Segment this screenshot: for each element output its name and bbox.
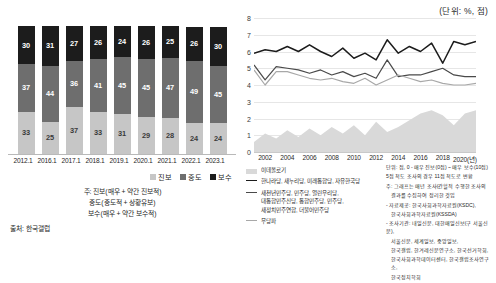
note-line: 주: 그래프는 매년 조사(간헐적 수행한 조사의 bbox=[386, 183, 494, 191]
x-tick-label: 2021.1 bbox=[156, 157, 179, 164]
legend-label: 이데올로기 bbox=[261, 166, 398, 174]
left-chart-notes: 주: 진보(매우 + 약간 진보적)중도(중도적 + 상황유보)보수(매우 + … bbox=[10, 186, 235, 219]
bar-segment-progressive: 24 bbox=[210, 123, 227, 154]
y-tick-label: 7 bbox=[240, 31, 251, 38]
bar-segment-progressive: 29 bbox=[138, 117, 155, 154]
x-tick-label: 2020(년) bbox=[448, 154, 482, 164]
bar-segment-progressive: 25 bbox=[42, 122, 59, 154]
left-chart-legend: 진보중도보수 bbox=[150, 172, 232, 182]
bar-segment-moderate: 37 bbox=[18, 64, 35, 111]
line-chart bbox=[254, 18, 476, 152]
x-tick-label: 2016.1 bbox=[36, 157, 59, 164]
stacked-bar-chart: 3037333144252736372641332445312645292547… bbox=[14, 26, 230, 154]
y-tick-label: 3 bbox=[240, 98, 251, 105]
x-tick-label: 2020.1 bbox=[132, 157, 155, 164]
line-chart-svg bbox=[254, 18, 476, 152]
bar-segment-progressive: 24 bbox=[186, 123, 203, 154]
bar-segment-progressive: 33 bbox=[90, 112, 107, 154]
bar-segment-conservative: 25 bbox=[162, 26, 179, 58]
legend-swatch-icon bbox=[210, 174, 216, 180]
legend-item-mod: 중도 bbox=[180, 172, 202, 182]
x-tick-label: 2019.1 bbox=[108, 157, 131, 164]
left-chart-panel: 3037333144252736372641332445312645292547… bbox=[0, 18, 240, 277]
bar-column: 254728 bbox=[162, 26, 179, 154]
area-series bbox=[254, 110, 476, 152]
legend-swatch-icon bbox=[246, 180, 257, 181]
x-tick-label: 2022.1 bbox=[180, 157, 203, 164]
note-line: 보수(매우 + 약간 보수적) bbox=[10, 208, 235, 219]
note-line: 단위: 점, 0 - 매우 진보(0점) ~ 매우 보수(10점) bbox=[386, 164, 494, 172]
bar-column: 314425 bbox=[42, 26, 59, 154]
note-line: 한국정치학회 bbox=[386, 274, 494, 282]
bar-column: 304524 bbox=[210, 26, 227, 154]
gridline bbox=[254, 152, 476, 153]
bar-segment-conservative: 24 bbox=[114, 26, 131, 57]
legend-item-ideology: 이데올로기 bbox=[246, 166, 398, 174]
legend-label: 새천년민주당, 민주당, 열린우리당,대통합민주신당, 통합민주당, 민주당,새… bbox=[261, 189, 398, 214]
note-line: 결과를 수집하여 정리한 것임 bbox=[386, 192, 494, 200]
note-line: 주: 진보(매우 + 약간 진보적) bbox=[10, 186, 235, 197]
left-chart-source: 출처: 한국갤럽 bbox=[10, 223, 50, 233]
legend-item-prog: 진보 bbox=[150, 172, 172, 182]
bar-column: 264924 bbox=[186, 26, 203, 154]
y-tick-label: 6 bbox=[240, 48, 251, 55]
legend-item-progressive_parties: 새천년민주당, 민주당, 열린우리당,대통합민주신당, 통합민주당, 민주당,새… bbox=[246, 189, 398, 214]
y-tick-label: 4 bbox=[240, 82, 251, 89]
note-line: 한국사회과학데이터센터, 한국갤럽조사연구소, bbox=[386, 256, 494, 272]
bar-segment-progressive: 31 bbox=[114, 114, 131, 154]
bar-segment-moderate: 41 bbox=[90, 59, 107, 111]
legend-swatch-icon bbox=[246, 169, 257, 174]
legend-swatch-icon bbox=[246, 220, 257, 221]
legend-item-cons: 보수 bbox=[210, 172, 232, 182]
x-tick-label: 2012.1 bbox=[12, 157, 35, 164]
note-line: 5점 척도 조사의 경우 11점 척도로 변환 bbox=[386, 173, 494, 181]
legend-item-conservative_parties: 한나라당, 새누리당, 미래통합당, 자유한국당 bbox=[246, 177, 398, 185]
x-tick-label: 2023.1 bbox=[204, 157, 227, 164]
bar-segment-moderate: 45 bbox=[114, 57, 131, 115]
bar-segment-conservative: 27 bbox=[66, 26, 83, 61]
right-chart-legend: 이데올로기한나라당, 새누리당, 미래통합당, 자유한국당새천년민주당, 민주당… bbox=[246, 166, 398, 228]
right-y-axis-labels: 012345678 bbox=[240, 14, 252, 148]
y-tick-label: 5 bbox=[240, 65, 251, 72]
bar-segment-moderate: 47 bbox=[162, 58, 179, 118]
bar-segment-moderate: 45 bbox=[138, 59, 155, 117]
bar-segment-progressive: 37 bbox=[66, 107, 83, 154]
note-line: - 조사기관: 내일신문, 대한매일신보(구 서울신문), bbox=[386, 220, 494, 236]
legend-label: 진보 bbox=[158, 172, 172, 182]
x-tick-label: 2017.1 bbox=[60, 157, 83, 164]
legend-swatch-icon bbox=[246, 192, 257, 193]
right-chart-panel: 012345678 200220042006200820102012201420… bbox=[240, 14, 496, 277]
bar-segment-progressive: 33 bbox=[18, 112, 35, 154]
line-series bbox=[254, 40, 476, 63]
legend-label: 보수 bbox=[218, 172, 232, 182]
bar-segment-moderate: 49 bbox=[186, 61, 203, 124]
bar-segment-conservative: 30 bbox=[210, 27, 227, 65]
note-line: - 자료제공: 한국사회과학자료원(KSDC), bbox=[386, 202, 494, 210]
legend-item-independent: 무당파 bbox=[246, 217, 398, 225]
left-axis-line bbox=[8, 154, 236, 155]
bar-segment-moderate: 45 bbox=[210, 66, 227, 124]
legend-swatch-icon bbox=[180, 174, 186, 180]
x-tick-label: 2018.1 bbox=[84, 157, 107, 164]
y-tick-label: 2 bbox=[240, 115, 251, 122]
legend-swatch-icon bbox=[150, 174, 156, 180]
bar-segment-moderate: 36 bbox=[66, 61, 83, 107]
legend-label: 한나라당, 새누리당, 미래통합당, 자유한국당 bbox=[261, 177, 398, 185]
bar-segment-conservative: 30 bbox=[18, 26, 35, 64]
bar-column: 264529 bbox=[138, 26, 155, 154]
left-x-axis-labels: 2012.12016.12017.12018.12019.12020.12021… bbox=[14, 157, 230, 169]
right-chart-notes: 단위: 점, 0 - 매우 진보(0점) ~ 매우 보수(10점)5점 척도 조… bbox=[386, 164, 494, 283]
bar-column: 273637 bbox=[66, 26, 83, 154]
bar-segment-conservative: 26 bbox=[138, 26, 155, 59]
legend-label: 중도 bbox=[188, 172, 202, 182]
bar-segment-moderate: 44 bbox=[42, 66, 59, 122]
bar-segment-conservative: 31 bbox=[42, 26, 59, 66]
bar-column: 303733 bbox=[18, 26, 35, 154]
line-series bbox=[254, 70, 476, 85]
bar-segment-conservative: 26 bbox=[90, 26, 107, 59]
note-line: 중도(중도적 + 상황유보) bbox=[10, 197, 235, 208]
note-line: 한국사회과학자료원(KSSDA) bbox=[386, 211, 494, 219]
note-line: 한국갤럽, 한겨레신문연구소, 한국선거학회, bbox=[386, 247, 494, 255]
bar-segment-conservative: 26 bbox=[186, 27, 203, 60]
